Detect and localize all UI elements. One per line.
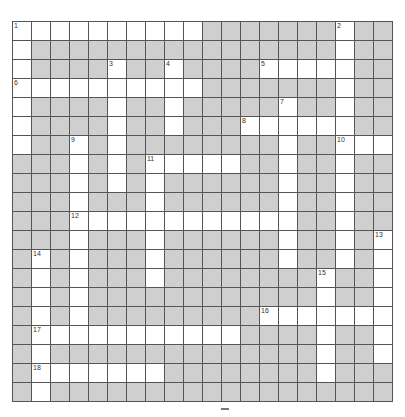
answer-cell[interactable] [12,135,31,154]
answer-cell[interactable]: 15 [316,268,335,287]
answer-cell[interactable] [88,21,107,40]
answer-cell[interactable] [107,211,126,230]
answer-cell[interactable]: 14 [31,249,50,268]
answer-cell[interactable] [69,249,88,268]
answer-cell[interactable] [183,154,202,173]
answer-cell[interactable] [316,116,335,135]
answer-cell[interactable] [354,135,373,154]
answer-cell[interactable] [221,154,240,173]
answer-cell[interactable] [31,344,50,363]
answer-cell[interactable] [335,192,354,211]
answer-cell[interactable] [69,363,88,382]
answer-cell[interactable] [145,173,164,192]
answer-cell[interactable] [373,249,392,268]
answer-cell[interactable] [88,78,107,97]
answer-cell[interactable] [31,287,50,306]
answer-cell[interactable] [69,287,88,306]
answer-cell[interactable] [278,173,297,192]
answer-cell[interactable]: 2 [335,21,354,40]
answer-cell[interactable]: 6 [12,78,31,97]
answer-cell[interactable] [373,325,392,344]
answer-cell[interactable] [145,211,164,230]
answer-cell[interactable]: 10 [335,135,354,154]
answer-cell[interactable] [278,249,297,268]
answer-cell[interactable]: 11 [145,154,164,173]
answer-cell[interactable] [69,325,88,344]
answer-cell[interactable] [316,59,335,78]
answer-cell[interactable]: 3 [107,59,126,78]
answer-cell[interactable] [335,173,354,192]
answer-cell[interactable] [31,306,50,325]
answer-cell[interactable] [316,287,335,306]
answer-cell[interactable] [183,78,202,97]
answer-cell[interactable] [107,363,126,382]
answer-cell[interactable] [50,325,69,344]
answer-cell[interactable] [107,78,126,97]
answer-cell[interactable] [145,268,164,287]
answer-cell[interactable] [335,154,354,173]
answer-cell[interactable] [278,211,297,230]
answer-cell[interactable] [278,192,297,211]
answer-cell[interactable] [373,344,392,363]
answer-cell[interactable] [316,363,335,382]
answer-cell[interactable] [354,306,373,325]
answer-cell[interactable] [373,268,392,287]
answer-cell[interactable] [12,116,31,135]
answer-cell[interactable] [297,59,316,78]
answer-cell[interactable] [335,40,354,59]
answer-cell[interactable] [335,116,354,135]
answer-cell[interactable] [373,135,392,154]
answer-cell[interactable] [316,325,335,344]
answer-cell[interactable] [107,21,126,40]
answer-cell[interactable] [259,211,278,230]
answer-cell[interactable]: 18 [31,363,50,382]
answer-cell[interactable]: 16 [259,306,278,325]
answer-cell[interactable] [126,21,145,40]
answer-cell[interactable] [202,154,221,173]
answer-cell[interactable] [31,78,50,97]
answer-cell[interactable] [50,363,69,382]
answer-cell[interactable] [278,154,297,173]
answer-cell[interactable] [126,211,145,230]
answer-cell[interactable] [69,192,88,211]
answer-cell[interactable] [12,59,31,78]
answer-cell[interactable]: 5 [259,59,278,78]
answer-cell[interactable] [297,306,316,325]
answer-cell[interactable] [69,78,88,97]
answer-cell[interactable] [145,192,164,211]
answer-cell[interactable] [107,325,126,344]
answer-cell[interactable]: 8 [240,116,259,135]
answer-cell[interactable] [31,382,50,401]
answer-cell[interactable] [50,78,69,97]
answer-cell[interactable] [12,97,31,116]
answer-cell[interactable] [145,21,164,40]
answer-cell[interactable]: 7 [278,97,297,116]
answer-cell[interactable]: 12 [69,211,88,230]
answer-cell[interactable] [145,78,164,97]
answer-cell[interactable] [278,306,297,325]
answer-cell[interactable] [202,325,221,344]
answer-cell[interactable] [278,116,297,135]
answer-cell[interactable] [164,78,183,97]
answer-cell[interactable] [183,211,202,230]
answer-cell[interactable]: 1 [12,21,31,40]
answer-cell[interactable] [335,230,354,249]
answer-cell[interactable] [335,78,354,97]
answer-cell[interactable] [183,21,202,40]
answer-cell[interactable]: 13 [373,230,392,249]
answer-cell[interactable] [164,97,183,116]
answer-cell[interactable] [221,211,240,230]
answer-cell[interactable] [107,97,126,116]
answer-cell[interactable] [164,154,183,173]
answer-cell[interactable] [145,325,164,344]
answer-cell[interactable] [88,363,107,382]
answer-cell[interactable] [88,211,107,230]
answer-cell[interactable] [164,325,183,344]
answer-cell[interactable] [145,363,164,382]
answer-cell[interactable] [145,249,164,268]
answer-cell[interactable] [335,59,354,78]
answer-cell[interactable] [126,325,145,344]
answer-cell[interactable] [107,173,126,192]
answer-cell[interactable] [297,116,316,135]
answer-cell[interactable] [126,363,145,382]
